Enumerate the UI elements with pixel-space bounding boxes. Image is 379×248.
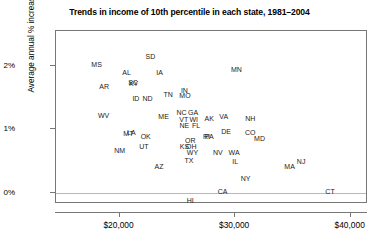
x-axis-line xyxy=(55,212,367,213)
data-point-label: AR xyxy=(99,83,109,90)
data-point-label: UT xyxy=(139,142,148,149)
data-point-label: CA xyxy=(218,187,228,194)
data-point-label: KY xyxy=(129,80,138,87)
data-point-label: ID xyxy=(132,95,139,102)
y-axis-tick-label: 0% xyxy=(3,187,15,196)
data-point-label: WY xyxy=(187,149,198,156)
data-point-label: MN xyxy=(231,65,242,72)
data-point-label: LA xyxy=(127,129,136,136)
data-point-label: WA xyxy=(229,149,240,156)
data-point-label: NH xyxy=(245,115,255,122)
y-axis-tick-mark xyxy=(50,65,55,66)
data-point-label: CT xyxy=(325,187,334,194)
x-axis-tick-mark xyxy=(119,212,120,217)
data-point-label: MO xyxy=(179,92,190,99)
data-point-label: NM xyxy=(114,146,125,153)
data-point-label: OK xyxy=(141,132,151,139)
x-axis-tick-mark xyxy=(350,212,351,217)
x-axis-tick-label: $20,000 xyxy=(103,220,133,230)
data-point-label: NJ xyxy=(297,158,306,165)
data-point-label: ND xyxy=(142,95,152,102)
data-point-label: NY xyxy=(241,175,251,182)
data-point-label: IL xyxy=(232,158,238,165)
scatter-chart: Trends in income of 10th percentile in e… xyxy=(0,0,379,248)
data-point-label: ME xyxy=(158,113,169,120)
zero-gridline xyxy=(56,193,366,194)
data-point-label: MA xyxy=(284,163,295,170)
data-point-label: GA xyxy=(188,109,198,116)
y-axis-tick-label: 2% xyxy=(3,60,15,69)
data-point-label: PA xyxy=(205,132,214,139)
data-point-label: NV xyxy=(213,149,223,156)
data-point-label: IA xyxy=(156,69,163,76)
data-point-label: VA xyxy=(219,112,228,119)
data-point-label: FL xyxy=(192,122,200,129)
x-axis-tick-mark xyxy=(234,212,235,217)
data-point-label: MD xyxy=(254,135,265,142)
data-point-label: AL xyxy=(122,69,131,76)
y-axis-label: Average annual % increase xyxy=(27,0,36,118)
y-axis-tick-mark xyxy=(50,128,55,129)
data-point-label: MS xyxy=(91,60,102,67)
data-point-label: SD xyxy=(145,52,155,59)
data-point-label: AK xyxy=(205,115,214,122)
data-point-label: HI xyxy=(187,196,194,203)
y-axis-tick-label: 1% xyxy=(3,124,15,133)
x-axis-tick-label: $30,000 xyxy=(219,220,249,230)
chart-title: Trends in income of 10th percentile in e… xyxy=(0,7,379,17)
data-point-label: DE xyxy=(221,128,231,135)
y-axis-tick-mark xyxy=(50,192,55,193)
data-point-label: TX xyxy=(185,156,194,163)
data-point-label: WV xyxy=(98,111,109,118)
data-point-label: TN xyxy=(164,91,173,98)
x-axis-tick-label: $40,000 xyxy=(335,220,365,230)
data-point-label: NE xyxy=(180,122,190,129)
data-point-label: AZ xyxy=(155,163,164,170)
